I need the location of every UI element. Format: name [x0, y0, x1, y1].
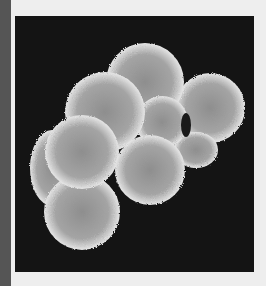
embryo-cells-illustration — [15, 16, 254, 272]
side-strip — [0, 0, 11, 286]
cell-middle-left — [45, 115, 119, 189]
micrograph-photo — [15, 16, 254, 272]
cell-center-right — [115, 135, 185, 205]
